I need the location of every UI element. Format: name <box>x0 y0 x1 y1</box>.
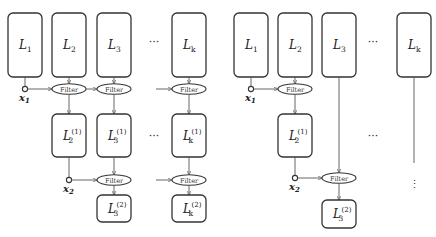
layer-subscript: 2 <box>294 136 299 145</box>
filter-node: Filter <box>278 84 312 94</box>
layer-box-left-row0-0: L1 <box>8 13 42 77</box>
filter-label: Filter <box>105 177 124 185</box>
filter-node: Filter <box>97 175 131 185</box>
layer-subscript: 2 <box>71 45 76 54</box>
ellipsis: ··· <box>149 36 160 49</box>
filter-label: Filter <box>286 86 305 94</box>
layer-box-right-row1-0: L(1)2 <box>278 114 312 157</box>
layer-subscript: 2 <box>68 136 73 145</box>
layer-superscript: (2) <box>191 201 201 209</box>
input-label: x2 <box>62 183 74 196</box>
filter-node: Filter <box>172 84 206 94</box>
cascade-filter-diagram: L1L2L3Lk···x1FilterFilterFilterL(1)2L(1)… <box>0 0 436 237</box>
filter-node: Filter <box>97 84 131 94</box>
layer-subscript: 3 <box>113 209 118 218</box>
ellipsis: ··· <box>368 36 379 49</box>
layer-box-left-row2-0: L(2)3 <box>97 195 131 222</box>
layer-subscript: 3 <box>338 214 343 223</box>
input-label: x1 <box>18 92 30 105</box>
layer-subscript: 3 <box>116 45 121 54</box>
input-subscript: 1 <box>251 96 256 105</box>
layer-symbol: L <box>244 38 253 52</box>
filter-label: Filter <box>60 86 79 94</box>
layer-superscript: (1) <box>191 128 201 136</box>
filter-node: Filter <box>52 84 86 94</box>
ellipsis: ··· <box>368 130 379 143</box>
layer-box-left-row0-3: Lk <box>172 13 206 77</box>
layer-symbol: L <box>182 38 191 52</box>
input-subscript: 1 <box>25 96 30 105</box>
layer-box-left-row1-0: L(1)2 <box>52 114 86 157</box>
layer-box-left-row0-1: L2 <box>52 13 86 77</box>
input-subscript: 2 <box>68 187 74 196</box>
filter-label: Filter <box>180 86 199 94</box>
layer-box-right-row0-3: Lk <box>397 13 431 77</box>
layer-subscript: 1 <box>27 45 32 54</box>
input-node-circle <box>22 86 27 91</box>
filter-label: Filter <box>180 177 199 185</box>
layer-box-right-row0-2: L3 <box>322 13 356 77</box>
layer-box-right-row2-0: L(2)3 <box>322 200 356 228</box>
layer-subscript: k <box>191 45 196 54</box>
input-label: x1 <box>244 92 256 105</box>
input-node-circle <box>292 175 297 180</box>
layer-subscript: 2 <box>297 45 302 54</box>
layer-symbol: L <box>288 38 297 52</box>
filter-node: Filter <box>322 173 356 183</box>
layer-subscript: k <box>188 136 193 145</box>
filter-node: Filter <box>172 175 206 185</box>
input-node-circle <box>248 86 253 91</box>
layer-symbol: L <box>62 38 71 52</box>
ellipsis: ··· <box>149 130 160 143</box>
layer-symbol: L <box>107 38 116 52</box>
layer-subscript: k <box>416 45 421 54</box>
layer-symbol: L <box>332 38 341 52</box>
layer-subscript: 3 <box>341 45 346 54</box>
layer-box-left-row1-2: L(1)k <box>172 114 206 157</box>
vertical-ellipsis: ⋮ <box>409 178 420 191</box>
layer-superscript: (1) <box>297 128 307 136</box>
layer-symbol: L <box>18 38 27 52</box>
layer-subscript: 1 <box>253 45 258 54</box>
input-node-circle <box>66 177 71 182</box>
layer-box-right-row0-1: L2 <box>278 13 312 77</box>
layer-box-left-row2-1: L(2)k <box>172 195 206 222</box>
layer-box-left-row1-1: L(1)3 <box>97 114 131 157</box>
layer-subscript: 3 <box>113 136 118 145</box>
input-label: x2 <box>288 181 300 194</box>
filter-label: Filter <box>105 86 124 94</box>
layer-box-left-row0-2: L3 <box>97 13 131 77</box>
layer-superscript: (2) <box>116 201 126 209</box>
layer-symbol: L <box>407 38 416 52</box>
layer-superscript: (2) <box>341 206 351 214</box>
filter-label: Filter <box>330 175 349 183</box>
input-subscript: 2 <box>294 185 300 194</box>
layer-subscript: k <box>188 209 193 218</box>
layer-box-right-row0-0: L1 <box>234 13 268 77</box>
layer-superscript: (1) <box>71 128 81 136</box>
layer-superscript: (1) <box>116 128 126 136</box>
